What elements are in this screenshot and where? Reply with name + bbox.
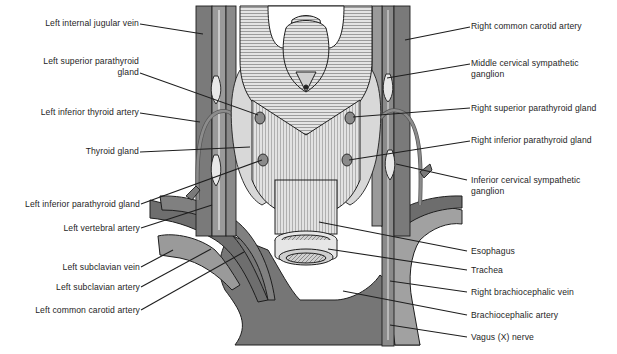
label-right-superior-parathyroid-gland: Right superior parathyroid gland (471, 103, 597, 114)
label-text: Vagus (X) nerve (471, 332, 534, 342)
label-text: Left subclavian artery (56, 282, 140, 292)
label-vagus-nerve: Vagus (X) nerve (471, 332, 534, 343)
label-left-superior-parathyroid-gland: Left superior parathyroidgland (43, 56, 139, 78)
label-left-inferior-parathyroid-gland: Left inferior parathyroid gland (25, 199, 140, 210)
label-right-inferior-parathyroid-gland: Right inferior parathyroid gland (471, 135, 592, 146)
label-text: Left vertebral artery (63, 223, 140, 233)
label-middle-cervical-sympathetic-ganglion: Middle cervical sympatheticganglion (471, 58, 579, 80)
label-text: Left common carotid artery (35, 305, 140, 315)
label-text: Left internal jugular vein (45, 18, 139, 28)
label-text: Right common carotid artery (471, 21, 582, 31)
label-right-brachiocephalic-vein: Right brachiocephalic vein (471, 287, 574, 298)
label-text: Thyroid gland (86, 146, 139, 156)
label-left-common-carotid-artery: Left common carotid artery (35, 305, 140, 316)
esophagus-trachea (275, 180, 337, 265)
label-text: Trachea (471, 265, 503, 275)
label-text: Right superior parathyroid gland (471, 103, 597, 113)
label-left-subclavian-vein: Left subclavian vein (63, 262, 140, 273)
label-text: Left inferior parathyroid gland (25, 199, 140, 209)
label-text: Esophagus (471, 246, 515, 256)
label-left-inferior-thyroid-artery: Left inferior thyroid artery (41, 107, 139, 118)
label-text: Left subclavian vein (63, 262, 140, 272)
anatomy-figure: Left internal jugular vein Left superior… (0, 0, 617, 354)
label-text: Brachiocephalic artery (471, 310, 558, 320)
label-inferior-cervical-sympathetic-ganglion: Inferior cervical sympatheticganglion (471, 175, 580, 197)
label-left-vertebral-artery: Left vertebral artery (63, 223, 140, 234)
label-brachiocephalic-artery: Brachiocephalic artery (471, 310, 558, 321)
label-trachea: Trachea (471, 265, 503, 276)
label-left-subclavian-artery: Left subclavian artery (56, 282, 140, 293)
label-text: Middle cervical sympathetic (471, 58, 579, 68)
label-text: Right brachiocephalic vein (471, 287, 574, 297)
label-left-internal-jugular-vein: Left internal jugular vein (45, 18, 139, 29)
label-text: Left superior parathyroid (43, 56, 139, 66)
label-text-line2: ganglion (471, 69, 504, 79)
label-text: Right inferior parathyroid gland (471, 135, 592, 145)
label-text: Inferior cervical sympathetic (471, 175, 580, 185)
label-thyroid-gland: Thyroid gland (86, 146, 139, 157)
label-text-line2: ganglion (471, 186, 504, 196)
label-text: Left inferior thyroid artery (41, 107, 139, 117)
label-esophagus: Esophagus (471, 246, 515, 257)
label-right-common-carotid-artery: Right common carotid artery (471, 21, 582, 32)
label-text-line2: gland (117, 67, 139, 77)
